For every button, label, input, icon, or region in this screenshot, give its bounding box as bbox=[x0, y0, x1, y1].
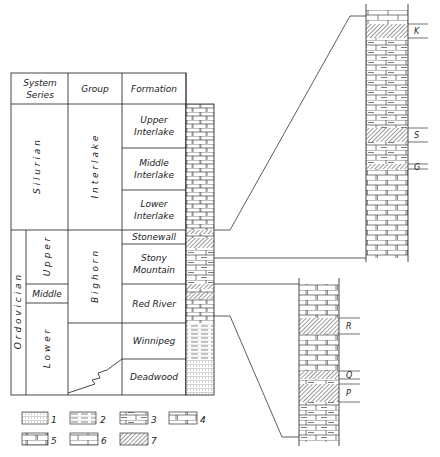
formation-middle-interlake-1: Middle bbox=[139, 158, 169, 168]
lithologic-column bbox=[186, 104, 214, 395]
formation-red-river: Red River bbox=[132, 299, 177, 309]
formation-lower-interlake-1: Lower bbox=[140, 199, 168, 209]
marker-g: G bbox=[414, 163, 420, 172]
legend-label-6: 6 bbox=[101, 436, 107, 446]
legend-swatch-2 bbox=[70, 412, 96, 424]
header-formation: Formation bbox=[131, 84, 177, 94]
legend-swatch-5 bbox=[22, 433, 48, 445]
system-ordovician: O r d o v i c i a n bbox=[13, 275, 23, 350]
group-interlake: I n t e r l a k e bbox=[90, 135, 100, 198]
series-upper: U p p e r bbox=[42, 236, 52, 276]
header-group: Group bbox=[81, 84, 109, 94]
formation-winnipeg: Winnipeg bbox=[133, 336, 176, 346]
legend-label-7: 7 bbox=[151, 436, 157, 446]
formation-lower-interlake-2: Interlake bbox=[134, 211, 174, 221]
stratigraphic-diagram: System Series Group Formation S i l u r … bbox=[0, 0, 440, 457]
legend-label-3: 3 bbox=[151, 415, 157, 425]
legend-swatch-1 bbox=[22, 412, 48, 424]
formation-stony-mountain-2: Mountain bbox=[133, 265, 175, 275]
legend-label-5: 5 bbox=[51, 436, 57, 446]
series-lower: L o w e r bbox=[42, 328, 52, 368]
system-silurian: S i l u r i a n bbox=[32, 140, 42, 194]
legend-label-2: 2 bbox=[100, 415, 106, 425]
detail-column-lower bbox=[299, 278, 360, 446]
marker-k: K bbox=[414, 27, 420, 36]
group-bighorn: B i g h o r n bbox=[90, 251, 100, 303]
legend-swatch-6 bbox=[70, 433, 98, 445]
marker-q: Q bbox=[346, 371, 352, 380]
formation-upper-interlake-2: Interlake bbox=[134, 127, 174, 137]
marker-p: P bbox=[346, 389, 351, 398]
marker-r: R bbox=[346, 322, 352, 331]
formation-deadwood: Deadwood bbox=[130, 372, 178, 382]
marker-s: S bbox=[414, 131, 419, 140]
legend-label-4: 4 bbox=[200, 415, 206, 425]
series-middle: Middle bbox=[32, 289, 62, 299]
legend-label-1: 1 bbox=[51, 415, 57, 425]
formation-stonewall: Stonewall bbox=[132, 232, 176, 242]
legend: 1 2 3 4 5 6 7 bbox=[22, 412, 206, 446]
unconformity-line bbox=[68, 359, 122, 393]
correlation-lines bbox=[214, 16, 366, 437]
header-series: Series bbox=[26, 90, 54, 100]
legend-swatch-4 bbox=[169, 412, 197, 424]
formation-stony-mountain-1: Stony bbox=[141, 253, 167, 263]
legend-swatch-7 bbox=[120, 433, 148, 445]
formation-upper-interlake-1: Upper bbox=[140, 115, 169, 125]
legend-swatch-3 bbox=[120, 412, 148, 424]
formation-middle-interlake-2: Interlake bbox=[134, 170, 174, 180]
header-system: System bbox=[23, 78, 57, 88]
